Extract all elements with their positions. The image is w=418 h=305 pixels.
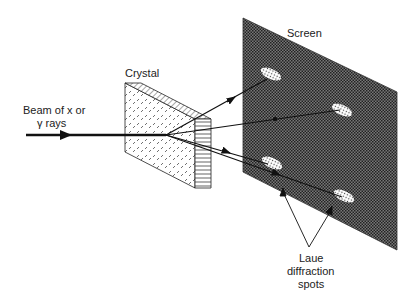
screen-label: Screen [287,27,322,39]
beam-label-line1: Beam of x or [23,104,86,116]
laue-diagram: Beam of x or γ rays Crystal Screen Laue … [0,0,418,305]
spots-label-line1: Laue [299,252,323,264]
spots-label-line2: diffraction [287,265,335,277]
spots-label-line3: spots [298,278,325,290]
beam-arrow-icon [60,130,72,140]
beam-label-line2: γ rays [37,117,67,129]
crystal-label: Crystal [125,67,159,79]
screen [243,18,397,250]
